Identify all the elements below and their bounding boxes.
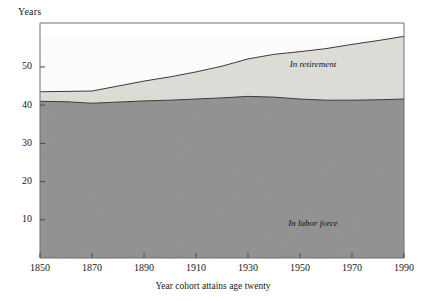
x-tick-label-1950: 1950 [280,262,320,273]
x-tick-label-1890: 1890 [124,262,164,273]
x-tick-label-1910: 1910 [176,262,216,273]
y-tick-label-50: 50 [6,60,32,71]
x-tick-label-1930: 1930 [228,262,268,273]
y-tick-label-10: 10 [6,213,32,224]
x-tick-label-1850: 1850 [20,262,60,273]
stacked-area-chart: In retirementIn labor force [0,0,426,301]
x-tick-label-1990: 1990 [384,262,424,273]
x-tick-label-1870: 1870 [72,262,112,273]
y-tick-label-20: 20 [6,175,32,186]
chart-root: Years In retirementIn labor force Year c… [0,0,426,301]
y-tick-label-30: 30 [6,137,32,148]
area-in-labor-force [40,96,404,258]
x-axis-title: Year cohort attains age twenty [0,281,426,291]
y-tick-label-40: 40 [6,99,32,110]
annotation-in-labor-force: In labor force [287,218,338,228]
x-tick-label-1970: 1970 [332,262,372,273]
annotation-in-retirement: In retirement [289,59,337,69]
